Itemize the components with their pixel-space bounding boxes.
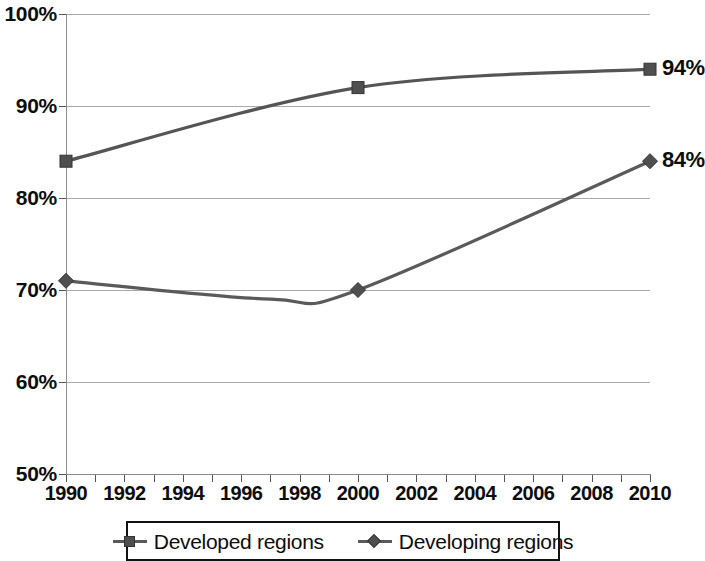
data-point-marker xyxy=(60,155,72,167)
data-point-marker xyxy=(644,63,656,75)
data-point-marker xyxy=(351,283,366,298)
legend-label-developing: Developing regions xyxy=(399,531,573,552)
chart-legend: Developed regions Developing regions xyxy=(126,521,560,561)
legend-entry-developed: Developed regions xyxy=(113,531,324,552)
diamond-marker-icon xyxy=(358,533,392,549)
value-label-developing: 84% xyxy=(662,149,705,171)
data-point-marker xyxy=(352,82,364,94)
data-point-marker xyxy=(59,273,74,288)
data-point-marker xyxy=(643,154,658,169)
legend-entry-developing: Developing regions xyxy=(358,531,573,552)
legend-label-developed: Developed regions xyxy=(154,531,324,552)
value-label-developed: 94% xyxy=(662,57,705,79)
square-marker-icon xyxy=(113,533,147,549)
